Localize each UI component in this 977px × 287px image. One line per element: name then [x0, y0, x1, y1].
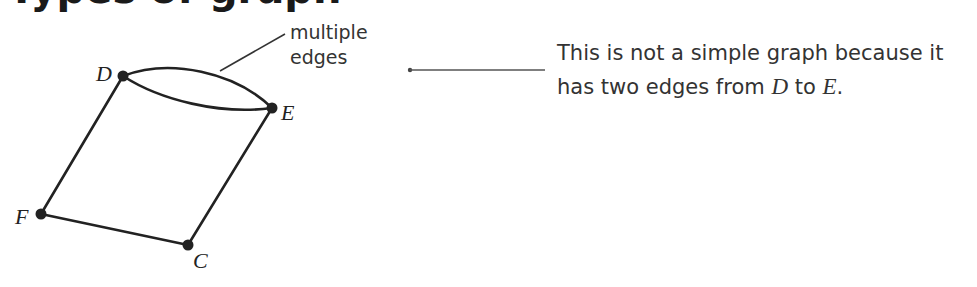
- vertex-d: [118, 71, 129, 82]
- note-var-d: D: [771, 74, 788, 99]
- edge-e-c: [188, 108, 272, 245]
- note-line-2-mid: to: [788, 75, 822, 99]
- note-line-2: has two edges from D to E.: [557, 70, 943, 104]
- vertex-label-c: C: [193, 248, 208, 273]
- annotation-line-2: edges: [290, 45, 368, 70]
- annotation-line-1: multiple: [290, 20, 368, 45]
- vertex-c: [183, 240, 194, 251]
- note-line-2-prefix: has two edges from: [557, 75, 771, 99]
- edge-f-c: [41, 214, 188, 245]
- edge-d-f: [41, 76, 123, 214]
- note-var-e: E: [822, 74, 836, 99]
- annotation-pointer-line: [220, 34, 285, 71]
- explanation-note: This is not a simple graph because it ha…: [557, 37, 943, 104]
- vertex-e: [267, 103, 278, 114]
- edge-d-e-lower: [123, 76, 272, 110]
- note-line-1: This is not a simple graph because it: [557, 37, 943, 70]
- vertex-label-d: D: [95, 61, 112, 86]
- annotation-multiple-edges: multiple edges: [290, 20, 368, 70]
- vertex-f: [36, 209, 47, 220]
- note-line-2-suffix: .: [837, 75, 844, 99]
- vertex-label-f: F: [14, 204, 29, 229]
- vertex-label-e: E: [280, 100, 295, 125]
